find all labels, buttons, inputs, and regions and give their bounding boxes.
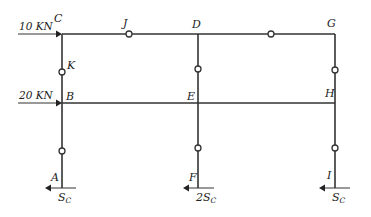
hinge-ba-icon bbox=[59, 148, 65, 154]
hinge-gh-icon bbox=[332, 67, 338, 73]
frame-diagram: 10 KN 20 KN C J D G K B E H A F I SC 2SC… bbox=[0, 0, 371, 217]
joint-label-k: K bbox=[66, 59, 76, 72]
hinge-de-icon bbox=[195, 66, 201, 72]
joint-label-j: J bbox=[121, 17, 128, 30]
joint-label-b: B bbox=[65, 90, 74, 103]
joint-label-f: F bbox=[188, 171, 197, 184]
joint-label-e: E bbox=[186, 90, 195, 103]
hinge-j-icon bbox=[126, 31, 132, 37]
arrowhead-icon bbox=[45, 185, 51, 192]
hinge-top-right-icon bbox=[268, 31, 274, 37]
joint-label-c: C bbox=[54, 12, 63, 25]
reaction-label-i: SC bbox=[332, 191, 346, 205]
joint-label-d: D bbox=[191, 18, 201, 31]
hinge-hi-icon bbox=[332, 145, 338, 151]
load-label-20kn: 20 KN bbox=[18, 89, 54, 101]
arrowhead-icon bbox=[56, 31, 62, 38]
arrowhead-icon bbox=[56, 100, 62, 107]
load-label-10kn: 10 KN bbox=[19, 20, 54, 32]
joint-label-h: H bbox=[324, 87, 335, 100]
hinge-ef-icon bbox=[195, 145, 201, 151]
joint-label-g: G bbox=[327, 17, 336, 30]
joint-label-a: A bbox=[50, 171, 59, 184]
reaction-label-a: SC bbox=[58, 191, 72, 205]
hinge-k-icon bbox=[59, 69, 65, 75]
arrowhead-icon bbox=[319, 185, 325, 192]
joint-label-i: I bbox=[326, 169, 332, 182]
reaction-label-f: 2SC bbox=[195, 191, 217, 205]
arrowhead-icon bbox=[183, 185, 189, 192]
